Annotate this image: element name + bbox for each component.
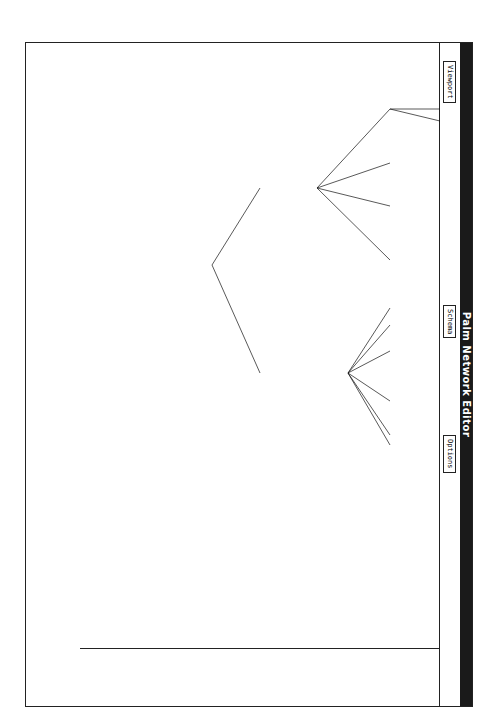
window-title: Palm Network Editor: [460, 43, 472, 706]
menu-options[interactable]: Options: [443, 435, 456, 473]
palm-network-editor-window: Palm Network Editor Viewport Schema Opti…: [25, 42, 473, 707]
menu-bar: Viewport Schema Options: [439, 43, 460, 706]
menu-schema[interactable]: Schema: [443, 305, 456, 338]
menu-viewport[interactable]: Viewport: [443, 61, 456, 103]
network-canvas[interactable]: [80, 43, 440, 649]
network-labels: [80, 43, 440, 648]
